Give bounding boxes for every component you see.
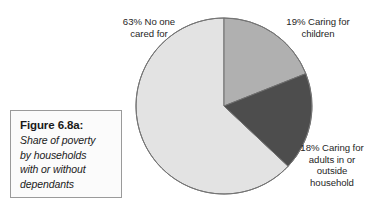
pie-label-caring-for-adults: 18% Caring for adults in or outside hous… [274, 142, 390, 188]
pie-label-line: 63% No one [96, 16, 202, 28]
figure-caption-box: Figure 6.8a: Share of poverty by househo… [10, 110, 122, 198]
pie-label-caring-for-children: 19% Caring for children [262, 16, 374, 39]
figure-6-8a: 63% No one cared for 19% Caring for chil… [0, 0, 392, 215]
figure-caption-line: by households [20, 148, 113, 163]
pie-label-line: 19% Caring for [262, 16, 374, 28]
pie-label-line: household [274, 177, 390, 189]
figure-caption-title: Figure 6.8a: [20, 118, 113, 132]
figure-caption-line: with or without [20, 162, 113, 177]
pie-label-line: 18% Caring for [274, 142, 390, 154]
pie-label-line: cared for [96, 28, 202, 40]
pie-label-line: children [262, 28, 374, 40]
pie-label-no-one-cared-for: 63% No one cared for [96, 16, 202, 39]
figure-caption-line: Share of poverty [20, 133, 113, 148]
pie-label-line: outside [274, 165, 390, 177]
pie-label-line: adults in or [274, 154, 390, 166]
figure-caption-line: dependants [20, 177, 113, 192]
